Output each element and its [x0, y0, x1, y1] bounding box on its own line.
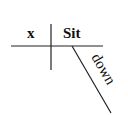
- sentence-diagram: x Sit down: [0, 0, 128, 115]
- verb-word: Sit: [63, 25, 81, 41]
- subject-word: x: [27, 25, 35, 41]
